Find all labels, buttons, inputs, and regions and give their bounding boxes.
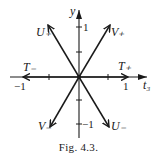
x-tick-label-neg: −1	[14, 80, 26, 92]
weight-vectors	[23, 25, 128, 127]
label-u-minus: U₋	[111, 119, 127, 133]
label-t-minus: T₋	[23, 60, 37, 74]
label-v-minus: V₋	[38, 119, 52, 133]
vector-u-plus	[48, 25, 79, 77]
label-u-plus: U₊	[36, 25, 52, 39]
y-tick-label-neg: −1	[82, 118, 94, 130]
vector-v-minus	[50, 77, 79, 127]
axes	[10, 10, 147, 138]
figure-caption: Fig. 4.3.	[0, 141, 157, 153]
x-axis-label: t₃	[143, 78, 151, 92]
y-axis-label: y	[69, 4, 76, 18]
x-tick-label-pos: 1	[123, 80, 129, 92]
origin-dot	[77, 75, 81, 79]
label-t-plus: T₊	[118, 59, 132, 73]
label-v-plus: V₊	[111, 25, 125, 39]
y-tick-label-pos: 1	[83, 21, 89, 33]
root-diagram: y t₃ 1 −1 −1 1 U₊ V₊ T₋ T₊ V₋ U₋	[0, 0, 157, 159]
